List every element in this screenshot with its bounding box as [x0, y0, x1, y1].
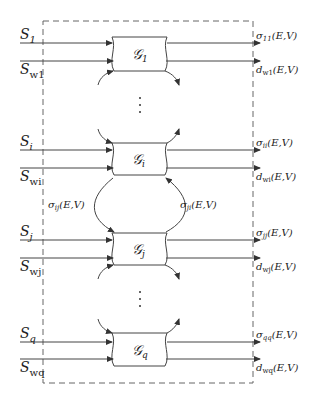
output-label-d: dwi(E,V) — [256, 171, 296, 184]
input-label-s: S1 — [20, 26, 36, 45]
coupling-stub-out — [167, 129, 179, 143]
block-1: 𝒢1S1Sw1σ11(E,V)dw1(E,V) — [20, 26, 298, 85]
coupling-stub-in — [98, 71, 113, 85]
output-label-sigma: σ11(E,V) — [256, 30, 297, 43]
coupling-stub-out — [167, 319, 179, 333]
block-i: 𝒢iSiSwiσii(E,V)dwi(E,V) — [20, 129, 296, 187]
coupling-stub-out — [165, 71, 179, 85]
block-j: 𝒢jSjSwjσjj(E,V)dwj(E,V) — [20, 223, 296, 279]
output-label-sigma: σii(E,V) — [256, 137, 293, 150]
input-label-w: Sw1 — [20, 61, 45, 80]
coupling-stub-in — [98, 319, 112, 333]
input-label-s: Si — [20, 133, 33, 152]
coupling-stub-out — [165, 265, 179, 279]
output-label-sigma: σqq(E,V) — [256, 329, 297, 342]
output-label-d: dwq(E,V) — [256, 362, 298, 375]
ellipsis-upper — [139, 97, 141, 113]
input-label-s: Sj — [20, 223, 33, 242]
ellipsis-lower — [139, 291, 141, 307]
output-label-d: dw1(E,V) — [256, 64, 298, 77]
output-label-sigma: σjj(E,V) — [256, 227, 293, 240]
input-label-s: Sq — [20, 325, 36, 344]
coupling-curve-ij — [94, 178, 114, 232]
block-q: 𝒢qSqSwqσqq(E,V)dwq(E,V) — [20, 319, 298, 378]
coupling-stub-in — [98, 129, 112, 143]
input-label-w: Swi — [20, 168, 41, 187]
coupling-label-ij: σij(E,V) — [48, 199, 85, 212]
multi-terminal-diagram: 𝒢1S1Sw1σ11(E,V)dw1(E,V)𝒢iSiSwiσii(E,V)dw… — [0, 0, 312, 404]
input-label-w: Swj — [20, 258, 41, 277]
input-label-w: Swq — [20, 359, 45, 378]
output-label-d: dwj(E,V) — [256, 261, 296, 274]
coupling-stub-in — [98, 265, 113, 279]
